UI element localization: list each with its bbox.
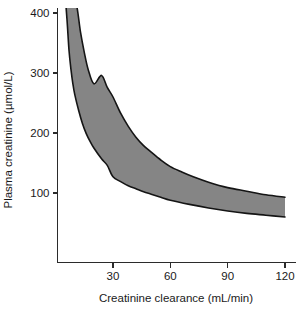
y-axis-title: Plasma creatinine (µmol/L) xyxy=(2,71,14,208)
x-tick-label: 60 xyxy=(164,270,177,282)
x-tick-label: 30 xyxy=(107,270,120,282)
plot-band-group xyxy=(66,1,285,217)
creatinine-clearance-chart: 100200300400 306090120 Creatinine cleara… xyxy=(0,0,307,309)
chart-figure: 100200300400 306090120 Creatinine cleara… xyxy=(0,0,307,309)
x-tick-label: 120 xyxy=(275,270,294,282)
x-axis-title: Creatinine clearance (mL/min) xyxy=(99,292,253,304)
x-axis-ticks: 306090120 xyxy=(107,263,295,282)
y-tick-label: 400 xyxy=(30,7,49,19)
y-tick-label: 100 xyxy=(30,187,49,199)
x-tick-label: 90 xyxy=(221,270,234,282)
y-tick-label: 300 xyxy=(30,67,49,79)
y-axis-ticks: 100200300400 xyxy=(30,7,57,199)
y-tick-label: 200 xyxy=(30,127,49,139)
shaded-band xyxy=(66,1,285,217)
